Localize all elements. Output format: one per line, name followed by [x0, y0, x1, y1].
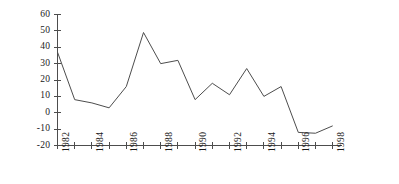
x-axis-tick-label: 1994 — [268, 131, 278, 151]
data-series-group — [58, 33, 333, 134]
x-axis-tick-label: 1984 — [96, 131, 106, 151]
x-axis-tick-label: 1990 — [199, 131, 209, 151]
y-axis-tick-label: 0 — [45, 108, 50, 118]
x-axis-tick-label: 1992 — [234, 131, 244, 151]
chart-plot-area — [0, 0, 399, 184]
x-axis-tick-label: 1986 — [130, 131, 140, 151]
y-axis-tick-label: 10 — [40, 91, 50, 101]
axes — [58, 15, 342, 146]
x-axis-tick-label: 1998 — [337, 131, 347, 151]
x-axis-tick-label: 1988 — [165, 131, 175, 151]
y-axis-tick-label: -20 — [37, 141, 51, 151]
y-axis-tick-label: 40 — [40, 42, 50, 52]
y-axis-tick-label: 20 — [40, 75, 50, 85]
y-axis-tick-label: 30 — [40, 59, 50, 69]
x-axis-tick-label: 1982 — [62, 131, 72, 151]
y-axis-tick-label: 60 — [40, 10, 50, 20]
series-line-1 — [58, 33, 333, 134]
line-chart: 6050403020100-10-20 19821984198619881990… — [0, 0, 399, 184]
y-axis-tick-label: 50 — [40, 26, 50, 36]
x-axis-tick-label: 1996 — [302, 131, 312, 151]
y-axis-tick-label: -10 — [37, 124, 51, 134]
